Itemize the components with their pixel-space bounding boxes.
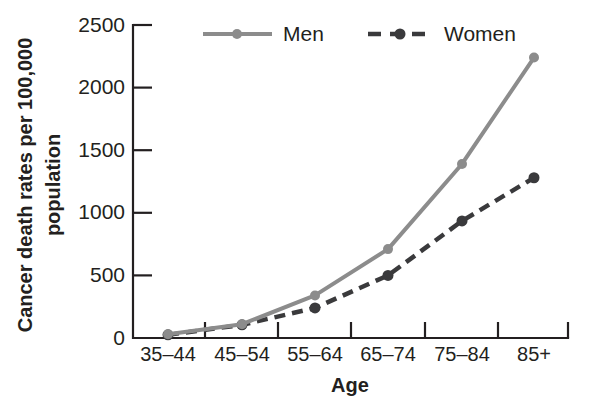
x-tick-label-85plus: 85+	[517, 343, 551, 365]
y-tick-label-1500: 1500	[78, 138, 125, 161]
data-point	[383, 270, 394, 281]
data-point	[529, 53, 539, 63]
legend-women-marker-icon	[395, 29, 406, 40]
cancer-death-rates-line-chart: 2500 2000 1500 1000 500 0 35–44 45–54 55…	[0, 0, 591, 408]
data-point	[310, 302, 321, 313]
legend-men-marker-icon	[232, 29, 242, 39]
data-point	[237, 319, 247, 329]
data-point	[310, 290, 320, 300]
data-point	[529, 172, 540, 183]
y-axis-title-line1: Cancer death rates per 100,000	[14, 38, 36, 333]
data-point	[163, 329, 173, 339]
x-tick-label-35-44: 35–44	[140, 343, 196, 365]
x-tick-label-65-74: 65–74	[360, 343, 416, 365]
data-point	[457, 215, 468, 226]
chart-container: 2500 2000 1500 1000 500 0 35–44 45–54 55…	[0, 0, 591, 408]
y-tick-label-0: 0	[113, 326, 125, 349]
x-tick-label-75-84: 75–84	[434, 343, 490, 365]
y-tick-label-2000: 2000	[78, 75, 125, 98]
y-tick-label-500: 500	[90, 263, 125, 286]
data-point	[457, 159, 467, 169]
legend-women-label: Women	[444, 22, 516, 45]
x-tick-label-55-64: 55–64	[287, 343, 343, 365]
x-tick-label-45-54: 45–54	[214, 343, 270, 365]
x-axis-title: Age	[331, 374, 369, 396]
data-point	[383, 244, 393, 254]
y-tick-label-2500: 2500	[78, 13, 125, 36]
y-axis-title-line2: population	[42, 134, 64, 236]
y-tick-label-1000: 1000	[78, 200, 125, 223]
legend-men-label: Men	[283, 22, 324, 45]
